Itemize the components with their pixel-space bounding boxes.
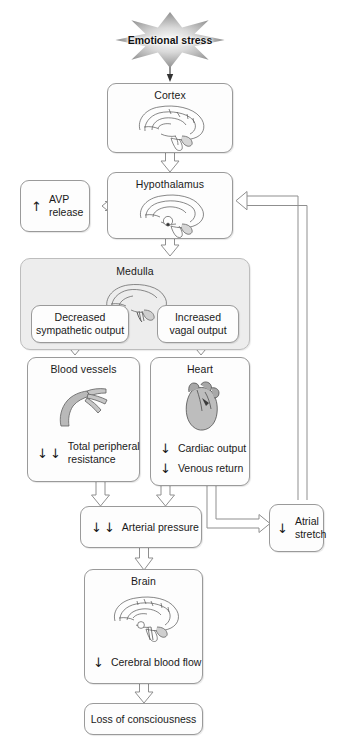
emotional-stress-label: Emotional stress [112, 34, 228, 46]
arterial-pressure-arrows: ↓↓ [91, 522, 117, 533]
node-arterial-pressure[interactable]: ↓↓ Arterial pressure [80, 506, 202, 548]
node-avp-release[interactable]: ↑ AVP release [20, 180, 90, 232]
avp-label-line1: AVP [49, 193, 69, 205]
node-heart[interactable]: Heart ↓ Cardiac output ↓ Venous return [150, 357, 250, 486]
avp-label-line2: release [49, 206, 83, 218]
arterial-pressure-text: Arterial pressure [122, 521, 199, 534]
sympathetic-label: Decreased sympathetic output [32, 311, 128, 337]
cerebral-blood-flow-arrow: ↓ [93, 657, 106, 668]
cardiac-output-arrow: ↓ [160, 443, 173, 454]
node-atrial-stretch[interactable]: ↓ Atrial stretch [269, 504, 324, 552]
brain-sagittal-icon [107, 592, 185, 646]
node-brain[interactable]: Brain ↓ Cerebral blood flow [84, 569, 203, 684]
heart-icon [177, 378, 229, 434]
venous-return-arrow: ↓ [160, 463, 173, 474]
hypothalamus-title: Hypothalamus [108, 178, 232, 190]
cortex-title: Cortex [108, 89, 232, 101]
brain-sagittal-icon [131, 102, 211, 152]
cardiac-output-text: Cardiac output [178, 442, 246, 455]
atrial-stretch-arrow: ↓ [277, 523, 290, 534]
vagal-line2: vagal output [169, 324, 226, 336]
node-blood-vessels[interactable]: Blood vessels ↓↓ Total peripheral resist… [27, 357, 140, 482]
arterial-pressure-measure: ↓↓ Arterial pressure [91, 521, 199, 534]
vagal-label: Increased vagal output [158, 311, 238, 337]
blood-vessel-icon [54, 380, 116, 430]
brain-hypothalamus-icon [133, 191, 211, 239]
avp-measure: ↑ AVP release [31, 193, 83, 219]
medulla-title: Medulla [21, 265, 249, 277]
atrial-stretch-line1: Atrial [295, 515, 319, 527]
cerebral-blood-flow-text: Cerebral blood flow [111, 656, 201, 669]
node-decreased-sympathetic-output[interactable]: Decreased sympathetic output [31, 305, 129, 343]
emotional-stress-burst: Emotional stress [112, 12, 228, 68]
heart-title: Heart [151, 363, 249, 375]
blood-vessels-title: Blood vessels [28, 363, 139, 375]
sympathetic-line1: Decreased [55, 311, 106, 323]
flowchart-diagram: Emotional stress Cortex ↑ AVP [0, 0, 340, 749]
tpr-line1: Total peripheral [68, 440, 140, 452]
heart-measure-venous-return: ↓ Venous return [160, 462, 243, 475]
heart-measure-cardiac-output: ↓ Cardiac output [160, 442, 246, 455]
node-cortex[interactable]: Cortex [107, 83, 233, 153]
blood-vessels-measure: ↓↓ Total peripheral resistance [37, 440, 140, 466]
sympathetic-line2: sympathetic output [36, 324, 124, 336]
brain-measure-cerebral-blood-flow: ↓ Cerebral blood flow [93, 656, 201, 669]
node-hypothalamus[interactable]: Hypothalamus [107, 172, 233, 239]
tpr-line2: resistance [68, 453, 116, 465]
venous-return-text: Venous return [178, 462, 243, 475]
vagal-line1: Increased [175, 311, 221, 323]
avp-arrow-up: ↑ [31, 201, 44, 212]
node-increased-vagal-output[interactable]: Increased vagal output [157, 305, 239, 343]
atrial-stretch-measure: ↓ Atrial stretch [277, 515, 326, 541]
brain-title: Brain [85, 575, 202, 587]
node-loss-of-consciousness[interactable]: Loss of consciousness [84, 703, 203, 735]
tpr-arrows: ↓↓ [37, 448, 63, 459]
atrial-stretch-text: Atrial stretch [295, 515, 327, 541]
avp-label: AVP release [49, 193, 83, 219]
atrial-stretch-line2: stretch [295, 528, 327, 540]
tpr-text: Total peripheral resistance [68, 440, 140, 466]
outcome-label: Loss of consciousness [85, 713, 202, 726]
